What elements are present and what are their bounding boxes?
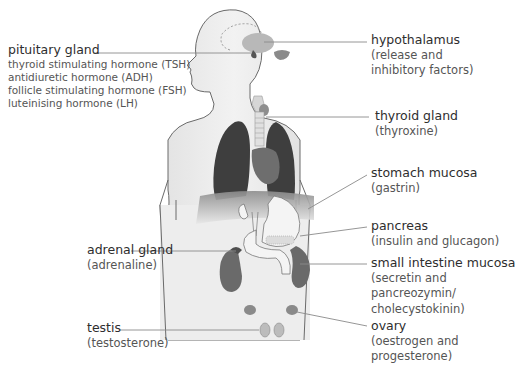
left-ovary — [244, 305, 256, 315]
adrenal-label: adrenal gland (adrenaline) — [87, 242, 173, 273]
pituitary-line-3: follicle stimulating hormone (FSH) — [8, 84, 190, 97]
right-ovary — [286, 305, 298, 315]
testis-label: testis (testosterone) — [87, 320, 169, 351]
hypothalamus-line-2: inhibitory factors) — [371, 63, 473, 79]
testis-line-1: (testosterone) — [87, 336, 169, 352]
pancreas-organ — [266, 236, 294, 244]
ovary-title: ovary — [371, 318, 459, 334]
small-intestine-line-3: cholecystokinin) — [371, 302, 516, 318]
pituitary-line-4: luteinising hormone (LH) — [8, 97, 190, 110]
hypothalamus-organ — [242, 33, 274, 53]
thyroid-line-1: (thyroxine) — [375, 124, 458, 140]
pituitary-line-2: antidiuretic hormone (ADH) — [8, 71, 190, 84]
ovary-label: ovary (oestrogen and progesterone) — [371, 318, 459, 365]
thyroid-label: thyroid gland (thyroxine) — [375, 108, 458, 139]
ovary-line-2: progesterone) — [371, 349, 459, 365]
small-intestine-line-2: pancreozymin/ — [371, 286, 516, 302]
small-intestine-line-1: (secretin and — [371, 271, 516, 287]
pituitary-label: pituitary gland thyroid stimulating horm… — [8, 42, 190, 110]
ovary-line-1: (oestrogen and — [371, 334, 459, 350]
small-intestine-label: small intestine mucosa (secretin and pan… — [371, 255, 516, 317]
testis-title: testis — [87, 320, 169, 336]
left-testis — [260, 323, 270, 337]
adrenal-line-1: (adrenaline) — [87, 258, 173, 274]
pancreas-label: pancreas (insulin and glucagon) — [371, 218, 499, 249]
right-testis — [274, 323, 284, 337]
hypothalamus-line-1: (release and — [371, 48, 473, 64]
pituitary-title: pituitary gland — [8, 42, 190, 58]
pancreas-line-1: (insulin and glucagon) — [371, 234, 499, 250]
hypothalamus-label: hypothalamus (release and inhibitory fac… — [371, 32, 473, 79]
hypothalamus-title: hypothalamus — [371, 32, 473, 48]
small-intestine-title: small intestine mucosa — [371, 255, 516, 271]
pituitary-line-1: thyroid stimulating hormone (TSH) — [8, 58, 190, 71]
stomach-title: stomach mucosa — [371, 165, 477, 181]
stomach-label: stomach mucosa (gastrin) — [371, 165, 477, 196]
pancreas-title: pancreas — [371, 218, 499, 234]
adrenal-title: adrenal gland — [87, 242, 173, 258]
thyroid-title: thyroid gland — [375, 108, 458, 124]
stomach-line-1: (gastrin) — [371, 181, 477, 197]
